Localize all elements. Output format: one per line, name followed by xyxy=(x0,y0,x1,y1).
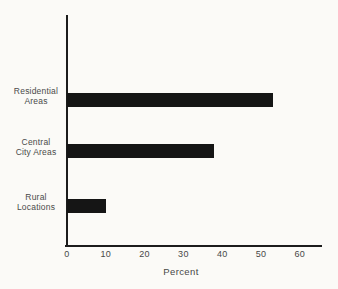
bar-rural-locations xyxy=(67,199,106,213)
x-axis-line xyxy=(65,245,322,247)
bar-chart-figure: ResidentialAreasCentralCity AreasRuralLo… xyxy=(0,0,338,289)
bar-residential-areas xyxy=(67,93,273,107)
category-label-rural-locations: RuralLocations xyxy=(7,193,65,212)
x-tick-label-50: 50 xyxy=(256,249,267,259)
x-tick-label-40: 40 xyxy=(217,249,228,259)
x-tick-label-30: 30 xyxy=(178,249,189,259)
x-tick-label-60: 60 xyxy=(294,249,305,259)
x-tick-label-10: 10 xyxy=(100,249,111,259)
bar-central-city-areas xyxy=(67,144,214,158)
category-label-central-city-areas: CentralCity Areas xyxy=(7,138,65,157)
x-tick-label-0: 0 xyxy=(64,249,69,259)
x-tick-label-20: 20 xyxy=(139,249,150,259)
category-label-residential-areas: ResidentialAreas xyxy=(7,87,65,106)
x-axis-title: Percent xyxy=(163,266,199,277)
